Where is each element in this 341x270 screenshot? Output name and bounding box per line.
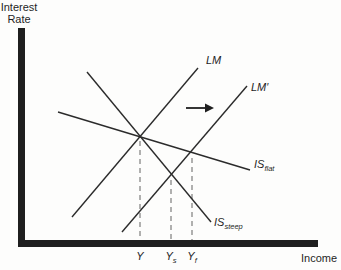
is-flat-subscript: flat: [264, 164, 274, 173]
tick-yf-subscript: f: [195, 256, 197, 265]
curve-label-is-steep: ISsteep: [214, 216, 243, 230]
islm-figure: Interest Rate Income LM LM′ ISflat ISste…: [0, 0, 341, 270]
x-axis-label: Income: [301, 252, 337, 264]
shift-right-arrow-head: [205, 104, 214, 113]
curve-label-lm: LM: [206, 54, 221, 66]
y-axis-bar: [18, 28, 25, 247]
tick-label-y: Y: [136, 250, 143, 264]
tick-ys-subscript: s: [173, 256, 177, 265]
is-steep-subscript: steep: [224, 222, 242, 231]
curve-label-is-flat: ISflat: [254, 158, 274, 172]
tick-label-ys: Ys: [165, 250, 176, 264]
is-flat-main: IS: [254, 158, 264, 170]
curve-lm: [72, 68, 198, 217]
is-steep-main: IS: [214, 216, 224, 228]
axes-group: [18, 28, 318, 247]
y-axis-label: Interest Rate: [0, 1, 38, 25]
y-axis-label-line1: Interest: [1, 1, 38, 13]
x-axis-bar: [18, 240, 318, 247]
y-axis-label-line2: Rate: [7, 13, 30, 25]
tick-label-yf: Yf: [187, 250, 196, 264]
curve-lm-prime: [122, 86, 247, 232]
shift-arrow-group: [186, 104, 214, 113]
tick-y-main: Y: [136, 250, 143, 262]
plot-svg: [0, 0, 341, 270]
curve-label-lm-prime: LM′: [251, 81, 268, 93]
curves-group: [58, 68, 250, 232]
